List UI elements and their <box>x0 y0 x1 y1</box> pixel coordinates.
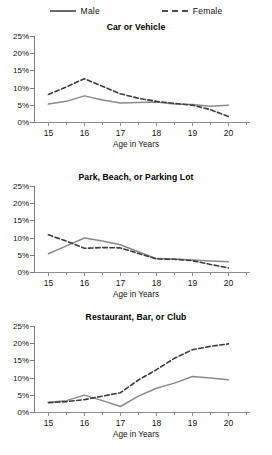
x-axis-tick <box>246 272 247 275</box>
y-axis-tick-label: 25% <box>13 32 29 41</box>
x-axis-tick <box>228 122 229 126</box>
y-axis-tick-label: 15% <box>13 66 29 75</box>
plot-area: 25%20%15%10%5%0%151617181920 <box>34 36 250 122</box>
plot-area: 25%20%15%10%5%0%151617181920 <box>34 186 250 272</box>
y-axis-tick-label: 25% <box>13 322 29 331</box>
panel-title: Park, Beach, or Parking Lot <box>0 172 272 182</box>
y-axis-tick-label: 20% <box>13 339 29 348</box>
x-axis-tick <box>210 412 211 415</box>
y-axis-tick-label: 15% <box>13 216 29 225</box>
y-axis-tick-label: 5% <box>17 390 29 399</box>
series-line-male <box>48 377 228 407</box>
x-axis-tick <box>120 412 121 416</box>
x-axis-tick <box>48 412 49 416</box>
series-line-female <box>48 79 228 117</box>
x-axis-tick-label: 20 <box>224 278 233 288</box>
chart-panel-restaurant-bar-or-club: Restaurant, Bar, or Club 25%20%15%10%5%0… <box>0 312 272 455</box>
panel-title: Restaurant, Bar, or Club <box>0 312 272 322</box>
x-axis-tick <box>66 272 67 275</box>
y-axis-tick-label: 0% <box>17 408 29 417</box>
y-axis-tick-label: 20% <box>13 49 29 58</box>
series-layer <box>34 326 250 412</box>
x-axis-tick <box>228 412 229 416</box>
series-line-female <box>48 344 228 403</box>
x-axis-tick <box>138 122 139 125</box>
chart-panel-park-beach-or-parking-lot: Park, Beach, or Parking Lot 25%20%15%10%… <box>0 172 272 317</box>
y-axis-tick <box>30 272 34 273</box>
x-axis-tick-label: 20 <box>224 128 233 138</box>
x-axis-tick <box>102 412 103 415</box>
x-axis-tick <box>120 122 121 126</box>
x-axis-tick <box>210 122 211 125</box>
x-axis-tick <box>174 412 175 415</box>
x-axis-tick <box>156 272 157 276</box>
x-axis-tick-label: 18 <box>152 128 161 138</box>
chart-panel-car-or-vehicle: Car or Vehicle 25%20%15%10%5%0%151617181… <box>0 22 272 167</box>
x-axis-tick <box>138 412 139 415</box>
x-axis-tick <box>102 122 103 125</box>
x-axis-tick-label: 15 <box>44 418 53 428</box>
x-axis-tick <box>102 272 103 275</box>
x-axis-caption: Age in Years <box>0 430 272 439</box>
y-axis-tick-label: 5% <box>17 250 29 259</box>
series-line-male <box>48 238 228 262</box>
x-axis-caption: Age in Years <box>0 290 272 299</box>
x-axis-tick-label: 16 <box>80 128 89 138</box>
solid-line-icon <box>50 6 76 16</box>
legend-label-female: Female <box>193 6 223 16</box>
series-layer <box>34 36 250 122</box>
chart-sheet: Male Female Car or Vehicle 25%20%15%10%5… <box>0 0 272 455</box>
x-axis-tick <box>246 122 247 125</box>
x-axis-tick-label: 15 <box>44 128 53 138</box>
legend-item-female: Female <box>162 6 223 16</box>
x-axis-tick <box>84 122 85 126</box>
x-axis-tick <box>210 272 211 275</box>
x-axis-tick <box>84 412 85 416</box>
y-axis-tick-label: 0% <box>17 118 29 127</box>
x-axis-tick <box>66 122 67 125</box>
y-axis-tick-label: 10% <box>13 373 29 382</box>
x-axis-tick <box>192 122 193 126</box>
y-axis-tick-label: 10% <box>13 83 29 92</box>
x-axis-tick <box>228 272 229 276</box>
x-axis-tick-label: 20 <box>224 418 233 428</box>
panel-title: Car or Vehicle <box>0 22 272 32</box>
x-axis-tick-label: 16 <box>80 418 89 428</box>
x-axis-tick-label: 18 <box>152 278 161 288</box>
x-axis-tick-label: 17 <box>116 418 125 428</box>
y-axis-tick-label: 25% <box>13 182 29 191</box>
y-axis-tick-label: 10% <box>13 233 29 242</box>
y-axis-tick <box>30 122 34 123</box>
x-axis-tick <box>174 122 175 125</box>
legend-label-male: Male <box>81 6 100 16</box>
x-axis-tick-label: 19 <box>188 128 197 138</box>
x-axis-tick <box>120 272 121 276</box>
x-axis-tick-label: 18 <box>152 418 161 428</box>
x-axis-tick <box>246 412 247 415</box>
x-axis-tick-label: 19 <box>188 418 197 428</box>
x-axis-tick-label: 17 <box>116 128 125 138</box>
x-axis-tick <box>138 272 139 275</box>
x-axis-tick <box>48 272 49 276</box>
y-axis-tick <box>30 412 34 413</box>
y-axis-tick-label: 15% <box>13 356 29 365</box>
dashed-line-icon <box>162 6 188 16</box>
x-axis-tick <box>174 272 175 275</box>
x-axis-tick <box>84 272 85 276</box>
x-axis-tick-label: 19 <box>188 278 197 288</box>
legend-item-male: Male <box>50 6 100 16</box>
x-axis-tick <box>66 412 67 415</box>
x-axis-tick-label: 16 <box>80 278 89 288</box>
plot-area: 25%20%15%10%5%0%151617181920 <box>34 326 250 412</box>
x-axis-tick <box>48 122 49 126</box>
x-axis-tick <box>156 412 157 416</box>
series-layer <box>34 186 250 272</box>
chart-legend: Male Female <box>0 2 272 20</box>
y-axis-tick-label: 20% <box>13 199 29 208</box>
y-axis-tick-label: 5% <box>17 100 29 109</box>
x-axis-tick-label: 17 <box>116 278 125 288</box>
x-axis-tick <box>156 122 157 126</box>
x-axis-caption: Age in Years <box>0 140 272 149</box>
x-axis-tick-label: 15 <box>44 278 53 288</box>
x-axis-tick <box>192 272 193 276</box>
